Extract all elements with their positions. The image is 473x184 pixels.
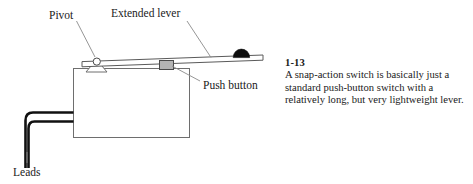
caption-text: A snap-action switch is basically just a… bbox=[285, 69, 471, 107]
actuator-ball-dome bbox=[233, 49, 249, 58]
figure-caption: 1-13 A snap-action switch is basically j… bbox=[285, 56, 471, 107]
pivot-circle bbox=[93, 58, 100, 65]
figure-container: Pivot Extended lever Push button Leads 1… bbox=[0, 0, 473, 184]
push-button-block bbox=[160, 61, 174, 70]
extended-lever-leader-line bbox=[187, 21, 211, 58]
label-pivot: Pivot bbox=[49, 9, 74, 21]
switch-body-rect bbox=[74, 69, 190, 138]
label-push-button: Push button bbox=[203, 79, 258, 91]
label-leads: Leads bbox=[13, 166, 41, 178]
caption-number: 1-13 bbox=[285, 56, 471, 69]
lead-wire-lower bbox=[29, 122, 74, 169]
pivot-leader-line bbox=[77, 21, 96, 57]
label-extended-lever: Extended lever bbox=[111, 7, 180, 19]
